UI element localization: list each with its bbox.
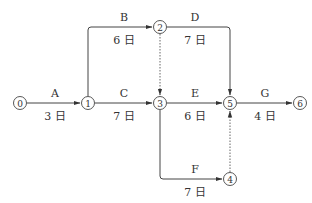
duration-label-E: 6 日 xyxy=(184,110,206,123)
node-4: 4 xyxy=(224,173,237,186)
duration-label-C: 7 日 xyxy=(113,110,135,123)
activity-label-E: E xyxy=(191,87,199,100)
duration-label-F: 7 日 xyxy=(184,186,206,199)
duration-label-D: 7 日 xyxy=(184,34,206,47)
node-5-label: 5 xyxy=(227,99,233,109)
node-2: 2 xyxy=(154,21,167,34)
duration-label-B: 6 日 xyxy=(113,34,135,47)
duration-label-A: 3 日 xyxy=(44,110,66,123)
activity-network-diagram: A 3 日 B 6 日 C 7 日 D 7 日 E 6 日 F 7 日 G 4 … xyxy=(0,0,312,203)
activity-label-D: D xyxy=(191,11,200,24)
node-6-label: 6 xyxy=(297,99,303,109)
node-2-label: 2 xyxy=(157,23,163,33)
activity-label-B: B xyxy=(120,11,128,24)
node-1: 1 xyxy=(82,97,95,110)
node-3: 3 xyxy=(154,97,167,110)
activity-label-C: C xyxy=(120,87,128,100)
duration-label-G: 4 日 xyxy=(254,110,276,123)
activity-label-F: F xyxy=(191,163,199,176)
node-0: 0 xyxy=(14,97,27,110)
node-6: 6 xyxy=(294,97,307,110)
node-1-label: 1 xyxy=(85,99,91,109)
activity-label-A: A xyxy=(50,87,60,100)
node-4-label: 4 xyxy=(227,175,233,185)
node-0-label: 0 xyxy=(17,99,23,109)
activity-label-G: G xyxy=(261,87,270,100)
node-3-label: 3 xyxy=(157,99,163,109)
node-5: 5 xyxy=(224,97,237,110)
